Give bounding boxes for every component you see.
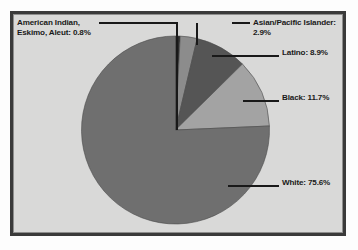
slice-label-black: Black: 11.7% <box>282 93 354 103</box>
slice-label-white: White: 75.6% <box>282 178 354 188</box>
pie-chart-figure: American Indian, Eskimo, Aleut: 0.8% Asi… <box>0 0 358 250</box>
slice-label-asian-pacific-islander: Asian/Pacific Islander: 2.9% <box>253 18 353 39</box>
slice-label-american-indian: American Indian, Eskimo, Aleut: 0.8% <box>17 18 127 39</box>
slice-label-latino: Latino: 8.9% <box>282 48 354 58</box>
pie-slice-group <box>82 36 270 224</box>
